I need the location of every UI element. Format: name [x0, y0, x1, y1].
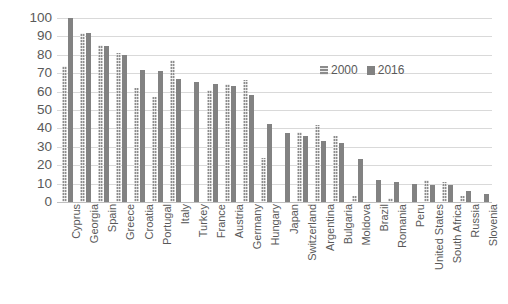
bars-layer — [57, 18, 492, 202]
bar — [321, 141, 326, 202]
bar-group — [406, 18, 417, 202]
legend-swatch-icon — [320, 66, 328, 75]
y-axis-tick-label: 80 — [4, 48, 52, 62]
bar-group — [315, 18, 326, 202]
bar — [213, 84, 218, 202]
x-axis-tick-label: Turkey — [198, 204, 209, 237]
y-axis-tick-label: 100 — [4, 11, 52, 25]
bar-group — [442, 18, 453, 202]
bar — [158, 71, 163, 202]
bar-group — [62, 18, 73, 202]
bar-group — [478, 18, 489, 202]
x-axis-tick-label: Brazil — [379, 204, 390, 232]
bar — [170, 60, 175, 202]
bar-group — [225, 18, 236, 202]
x-axis-tick-label: Russia — [470, 204, 481, 238]
bar — [194, 82, 199, 202]
bar-group — [170, 18, 181, 202]
y-axis-tick-label: 60 — [4, 85, 52, 99]
bar-group — [116, 18, 127, 202]
bar — [339, 143, 344, 202]
x-axis-tick-label: Croatia — [144, 204, 155, 239]
x-axis-tick-label: Japan — [289, 204, 300, 234]
bar — [134, 88, 139, 202]
x-axis-tick-label: Slovenia — [488, 204, 499, 246]
bar — [430, 185, 435, 202]
x-axis-tick-label: Portugal — [162, 204, 173, 245]
bar — [394, 182, 399, 202]
bar — [249, 95, 254, 202]
bar — [352, 196, 357, 202]
bar — [80, 33, 85, 202]
bar-group — [333, 18, 344, 202]
x-axis-tick-label: United States — [434, 204, 445, 270]
x-axis-tick-label: Greece — [125, 204, 136, 240]
bar-group — [297, 18, 308, 202]
x-axis-tick-label: Romania — [397, 204, 408, 248]
x-axis-tick-label: Georgia — [89, 204, 100, 243]
y-axis-tick-label: 70 — [4, 66, 52, 80]
bar-group — [424, 18, 435, 202]
x-axis-tick-label: Moldova — [361, 204, 372, 246]
bar-group — [134, 18, 145, 202]
x-axis-tick-label: Spain — [107, 204, 118, 232]
bar — [442, 182, 447, 202]
bar-group — [188, 18, 199, 202]
bar — [207, 90, 212, 202]
bar — [68, 18, 73, 202]
x-axis-tick-label: Argentina — [325, 204, 336, 251]
bar — [104, 46, 109, 202]
bar-group — [460, 18, 471, 202]
x-axis-tick-label: Italy — [180, 204, 191, 224]
bar — [152, 97, 157, 202]
bar — [358, 159, 363, 202]
x-axis: CyprusGeorgiaSpainGreeceCroatiaPortugalI… — [57, 204, 492, 304]
x-axis-tick-label: Switzerland — [307, 204, 318, 261]
bar — [388, 198, 393, 202]
legend-label: 2016 — [378, 64, 405, 76]
bar — [62, 66, 67, 202]
y-axis-tick-label: 50 — [4, 103, 52, 117]
bar-group — [388, 18, 399, 202]
x-axis-tick-label: South Africa — [452, 204, 463, 263]
x-axis-tick-label: Cyprus — [71, 204, 82, 239]
bar — [484, 194, 489, 202]
legend-label: 2000 — [331, 64, 358, 76]
bar — [98, 45, 103, 202]
bar — [243, 80, 248, 202]
legend-item[interactable]: 2016 — [367, 64, 405, 76]
legend-item[interactable]: 2000 — [320, 64, 358, 76]
bar — [315, 125, 320, 202]
bar-group — [207, 18, 218, 202]
bar — [116, 53, 121, 202]
y-axis: 0102030405060708090100 — [0, 0, 52, 304]
bar — [122, 55, 127, 202]
x-axis-tick-label: Hungary — [270, 204, 281, 246]
bar — [297, 132, 302, 202]
bar-group — [279, 18, 290, 202]
x-axis-tick-label: Peru — [415, 204, 426, 227]
bar — [460, 196, 465, 202]
x-axis-tick-label: Germany — [252, 204, 263, 249]
bar-group — [80, 18, 91, 202]
bar-group — [370, 18, 381, 202]
bar-chart: 0102030405060708090100 CyprusGeorgiaSpai… — [0, 0, 508, 304]
y-axis-tick-label: 20 — [4, 158, 52, 172]
bar — [285, 133, 290, 202]
bar — [333, 136, 338, 202]
legend-swatch-icon — [367, 66, 375, 75]
bar — [376, 180, 381, 202]
bar — [448, 185, 453, 202]
y-axis-tick-label: 30 — [4, 140, 52, 154]
bar — [176, 79, 181, 202]
x-axis-tick-label: France — [216, 204, 227, 238]
bar — [261, 158, 266, 202]
bar-group — [352, 18, 363, 202]
bar-group — [98, 18, 109, 202]
chart-legend: 20002016 — [320, 64, 404, 76]
bar-group — [261, 18, 272, 202]
y-axis-tick-label: 10 — [4, 177, 52, 191]
bar — [412, 184, 417, 202]
bar — [424, 180, 429, 202]
bar — [140, 70, 145, 202]
